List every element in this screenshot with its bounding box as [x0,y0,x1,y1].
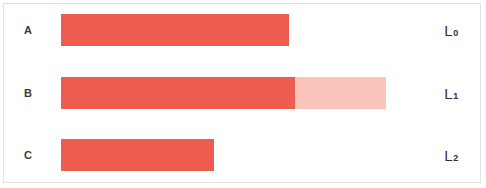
bar-row-a: A L0 [4,10,480,50]
right-label-l2-subscript: 2 [453,153,458,163]
right-label-l2: L2 [428,135,474,175]
bar-chart-card: A L0 B L1 C L2 [3,3,481,183]
right-label-l2-base: L [444,147,452,164]
bar-row-b: B L1 [4,73,480,113]
bar-track-b [61,77,386,109]
bar-track-c [61,139,214,171]
bar-track-a [61,14,289,46]
right-label-l1: L1 [428,73,474,113]
right-label-l0-subscript: 0 [453,28,458,38]
right-label-l0: L0 [428,10,474,50]
right-label-l1-base: L [444,85,452,102]
right-label-l0-base: L [444,22,452,39]
row-label-a: A [4,10,52,50]
bar-row-c: C L2 [4,135,480,175]
bar-segment-b-remainder [295,77,386,109]
right-label-l1-subscript: 1 [453,91,458,101]
bar-segment-c-filled [61,139,214,171]
bar-segment-b-filled [61,77,295,109]
row-label-b: B [4,73,52,113]
bar-segment-a-filled [61,14,289,46]
row-label-c: C [4,135,52,175]
